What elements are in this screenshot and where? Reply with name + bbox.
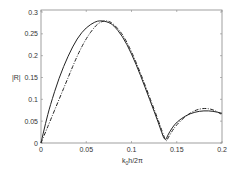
x-tick-label: 0.1	[127, 146, 137, 153]
y-tick-label: 0	[34, 140, 38, 147]
y-tick-label: 0.05	[24, 118, 38, 125]
x-axis-ticks: 00.050.10.150.2	[39, 10, 227, 153]
x-tick-label: 0.05	[79, 146, 93, 153]
reflection-coefficient-chart: 00.050.10.150.2 00.050.10.150.20.250.3 |…	[0, 0, 234, 171]
y-tick-label: 0.2	[28, 52, 38, 59]
y-tick-label: 0.25	[24, 30, 38, 37]
x-tick-label: 0	[39, 146, 43, 153]
y-tick-label: 0.1	[28, 96, 38, 103]
x-tick-label: 0.2	[217, 146, 227, 153]
x-tick-label: 0.15	[170, 146, 184, 153]
series-line-solid	[41, 21, 222, 143]
svg-text:k0h/2π: k0h/2π	[122, 157, 143, 166]
y-axis-ticks: 00.050.10.150.20.250.3	[24, 9, 222, 147]
series-line-dash-dot	[41, 21, 222, 143]
y-tick-label: 0.3	[28, 9, 38, 16]
plot-frame	[41, 10, 222, 143]
y-tick-label: 0.15	[24, 74, 38, 81]
x-axis-label: k0h/2π	[122, 157, 143, 166]
data-series	[41, 21, 222, 143]
y-axis-label: |R|	[12, 74, 21, 82]
